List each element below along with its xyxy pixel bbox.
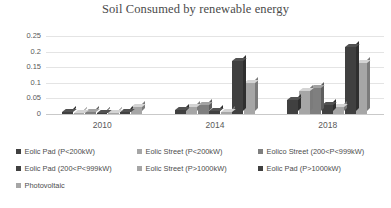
legend-swatch-icon [258, 166, 263, 171]
x-axis-tick-label: 2014 [206, 120, 225, 130]
y-axis: 00.050.10.150.20.25 [0, 36, 44, 118]
legend-swatch-icon [258, 149, 263, 154]
bar [85, 112, 96, 114]
chart-legend: Eolic Pad (P<200kW)Eolic Street (P<200kW… [16, 143, 384, 194]
bar-face [120, 112, 131, 114]
legend-item[interactable]: Eolic Pad (P>1000kW) [258, 164, 384, 173]
legend-label: Eolic Pad (200<P<999kW) [25, 164, 112, 173]
legend-item[interactable]: Eolic Street (P<200kW) [137, 147, 258, 156]
bar [221, 112, 232, 114]
x-axis-tick-label: 2010 [93, 120, 112, 130]
bar [97, 113, 108, 114]
bar-face [209, 111, 220, 114]
chart-container: Soil Consumed by renewable energy 00.050… [0, 0, 391, 208]
bar-face [62, 112, 73, 114]
gridline [46, 98, 384, 99]
gridline [46, 67, 384, 68]
legend-item[interactable]: Eolic Pad (200<P<999kW) [16, 164, 137, 173]
legend-item[interactable]: Eolico Street (200<P<999kW) [258, 147, 384, 156]
bar [108, 113, 119, 114]
legend-row: Eolic Pad (200<P<999kW)Eolic Street (P>1… [16, 160, 384, 177]
bar-side [367, 56, 370, 111]
legend-item[interactable]: Photovoltaic [16, 181, 160, 190]
bar [120, 112, 131, 114]
legend-label: Eolic Pad (P<200kW) [25, 147, 95, 156]
y-axis-tick-label: 0.2 [31, 48, 41, 56]
gridline [46, 83, 384, 84]
legend-item[interactable]: Eolic Street (P>1000kW) [137, 164, 258, 173]
y-axis-tick-label: 0.15 [26, 63, 41, 71]
legend-label: Eolic Street (P>1000kW) [145, 164, 226, 173]
bar-face [287, 100, 298, 114]
chart-title: Soil Consumed by renewable energy [0, 2, 391, 17]
bar-face [85, 112, 96, 114]
bar-face [175, 110, 186, 114]
legend-swatch-icon [16, 183, 21, 188]
legend-row: Photovoltaic [16, 177, 384, 194]
legend-item[interactable]: Eolic Pad (P<200kW) [16, 147, 137, 156]
legend-swatch-icon [137, 166, 142, 171]
legend-swatch-icon [16, 166, 21, 171]
legend-swatch-icon [137, 149, 142, 154]
bar [74, 113, 85, 114]
legend-swatch-icon [16, 149, 21, 154]
bar-side [356, 41, 359, 111]
bar-side [243, 55, 246, 111]
x-axis: 201020142018 [46, 120, 384, 134]
plot-area [46, 36, 384, 114]
bars-layer [46, 36, 384, 114]
gridline [46, 36, 384, 37]
bar [175, 110, 186, 114]
y-axis-tick-label: 0.25 [26, 32, 41, 40]
y-axis-tick-label: 0 [37, 110, 41, 118]
y-axis-tick-label: 0.1 [31, 79, 41, 87]
plot-wrapper: 00.050.10.150.20.25 [0, 36, 391, 118]
bar [209, 111, 220, 114]
gridline [46, 114, 384, 115]
legend-label: Photovoltaic [25, 181, 65, 190]
bar [287, 100, 298, 114]
legend-label: Eolico Street (200<P<999kW) [266, 147, 364, 156]
bar [62, 112, 73, 114]
gridline [46, 52, 384, 53]
y-axis-tick-label: 0.05 [26, 95, 41, 103]
legend-row: Eolic Pad (P<200kW)Eolic Street (P<200kW… [16, 143, 384, 160]
legend-label: Eolic Street (P<200kW) [145, 147, 222, 156]
x-axis-tick-label: 2018 [318, 120, 337, 130]
legend-label: Eolic Pad (P>1000kW) [266, 164, 341, 173]
